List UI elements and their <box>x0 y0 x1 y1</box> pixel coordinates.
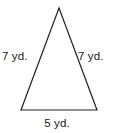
right-side-length-label: 7 yd. <box>78 50 103 63</box>
triangle-figure: 7 yd. 7 yd. 5 yd. <box>0 0 114 133</box>
left-side-length-label: 7 yd. <box>2 50 27 63</box>
triangle-shape <box>0 0 114 133</box>
base-length-label: 5 yd. <box>0 117 114 130</box>
